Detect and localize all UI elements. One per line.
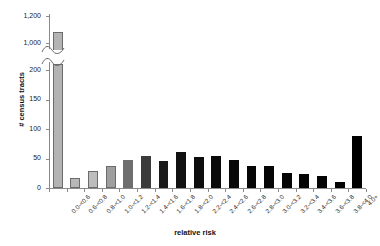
x-tick-mark (225, 189, 226, 192)
bar (282, 173, 292, 188)
y-tick-label: 1,000 (7, 39, 41, 46)
bar (264, 166, 274, 188)
bar (141, 156, 151, 188)
x-tick-mark (84, 189, 85, 192)
y-tick-label: 100 (7, 125, 41, 132)
y-tick-mark (46, 16, 49, 17)
bar (88, 171, 98, 188)
x-tick-label: 2.8-<3.0 (263, 193, 284, 214)
bar (70, 178, 80, 188)
bar (123, 160, 133, 188)
x-tick-label: 1.8-<2.0 (193, 193, 214, 214)
x-axis-title: relative risk (140, 228, 250, 237)
x-tick-mark (49, 189, 50, 192)
x-tick-mark (278, 189, 279, 192)
x-tick-mark (313, 189, 314, 192)
bar (159, 161, 169, 188)
x-tick-mark (119, 189, 120, 192)
y-tick-label: 200 (7, 66, 41, 73)
x-tick-mark (102, 189, 103, 192)
x-tick-mark (366, 189, 367, 192)
y-tick-mark (46, 159, 49, 160)
x-tick-mark (155, 189, 156, 192)
x-tick-mark (243, 189, 244, 192)
bar (352, 136, 362, 188)
bar (317, 176, 327, 188)
x-tick-label: 3.6-<3.8 (334, 193, 355, 214)
bar (176, 152, 186, 188)
y-tick-mark (46, 129, 49, 130)
x-tick-mark (260, 189, 261, 192)
x-tick-mark (348, 189, 349, 192)
bar (299, 174, 309, 188)
y-tick-label: 0 (7, 184, 41, 191)
y-tick-label: 150 (7, 95, 41, 102)
x-tick-label: 1.6-<1.8 (175, 193, 196, 214)
bar (335, 182, 345, 188)
x-tick-mark (331, 189, 332, 192)
bar (229, 160, 239, 188)
y-tick-label: 50 (7, 154, 41, 161)
y-tick-label: 1,200 (7, 12, 41, 19)
x-tick-mark (67, 189, 68, 192)
x-tick-label: 2.6-<2.8 (246, 193, 267, 214)
x-tick-mark (137, 189, 138, 192)
bar (247, 166, 257, 188)
bar (106, 166, 116, 188)
bar (211, 156, 221, 188)
bar (53, 64, 63, 188)
x-tick-mark (208, 189, 209, 192)
x-tick-mark (172, 189, 173, 192)
x-tick-mark (190, 189, 191, 192)
x-tick-label: 0.8-<1.0 (105, 193, 126, 214)
axis-break-icon (40, 44, 74, 78)
y-tick-mark (46, 100, 49, 101)
y-axis-line-lower (49, 62, 50, 188)
bar (194, 157, 204, 188)
x-tick-mark (296, 189, 297, 192)
